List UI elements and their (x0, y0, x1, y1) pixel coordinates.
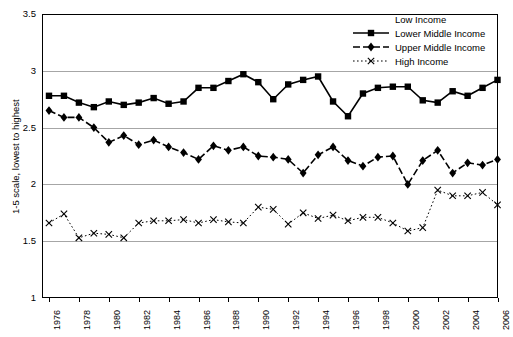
legend-marker-diamond-icon (352, 41, 390, 53)
legend-item-label: Low Income (395, 14, 446, 25)
legend-item-label: Lower Middle Income (395, 28, 485, 39)
legend-marker-square-icon (352, 27, 390, 39)
legend-item[interactable]: High Income (352, 54, 485, 68)
legend-item-label: Upper Middle Income (395, 42, 485, 53)
legend-item-label: High Income (395, 56, 448, 67)
data-series (46, 106, 501, 189)
data-series (46, 71, 501, 119)
chart-legend: Low IncomeLower Middle IncomeUpper Middl… (352, 12, 485, 68)
legend-marker-none-icon (352, 13, 390, 25)
legend-item[interactable]: Low Income (352, 12, 485, 26)
legend-item[interactable]: Upper Middle Income (352, 40, 485, 54)
legend-item[interactable]: Lower Middle Income (352, 26, 485, 40)
data-series (46, 187, 501, 241)
legend-marker-x-icon (352, 55, 390, 67)
chart-container: 11.522.533.5 197619781980198219841986198… (0, 0, 513, 337)
